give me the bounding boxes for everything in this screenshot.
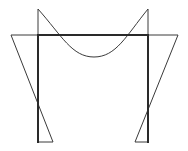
left-column-moment-outline xyxy=(11,35,53,142)
diagram-svg xyxy=(0,0,188,151)
portal-frame-diagram xyxy=(0,0,188,151)
right-column-moment-outline xyxy=(135,35,178,142)
beam-moment-curve xyxy=(38,9,148,57)
